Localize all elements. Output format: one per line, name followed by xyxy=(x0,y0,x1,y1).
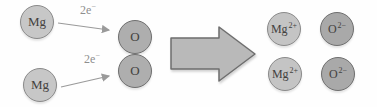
mg-atom: Mg xyxy=(23,68,57,102)
ionic-bonding-diagram: Mg Mg 2e− 2e− O O Mg2+ O2− Mg2+ O2− xyxy=(0,0,377,107)
electron-transfer-arrow-bottom xyxy=(61,76,109,87)
reaction-arrow xyxy=(171,27,255,81)
mg-atom: Mg xyxy=(20,5,54,39)
o-atom-label: O xyxy=(130,63,139,79)
o-atom: O xyxy=(118,54,152,88)
mg-ion: Mg2+ xyxy=(267,12,301,46)
ion-label: O2− xyxy=(328,22,346,37)
ion-label: Mg2+ xyxy=(271,22,297,37)
mg-atom-label: Mg xyxy=(28,14,46,30)
mg-atom-label: Mg xyxy=(31,77,49,93)
electron-transfer-label: 2e− xyxy=(74,52,110,67)
o-ion: O2− xyxy=(321,57,355,91)
electron-charge-sup: − xyxy=(91,2,96,11)
electron-transfer-arrow-top xyxy=(58,23,109,30)
ion-charge-sup: 2+ xyxy=(289,21,298,30)
mg-ion: Mg2+ xyxy=(268,57,302,91)
o-atom-label: O xyxy=(130,29,139,45)
o-atom: O xyxy=(118,20,152,54)
ion-label: O2− xyxy=(329,67,347,82)
arrow-layer xyxy=(0,0,377,107)
ion-charge-sup: 2− xyxy=(338,21,347,30)
o-ion: O2− xyxy=(320,12,354,46)
ion-charge-sup: 2− xyxy=(339,66,348,75)
electron-transfer-label: 2e− xyxy=(70,3,106,18)
ion-label: Mg2+ xyxy=(272,67,298,82)
electron-charge-sup: − xyxy=(95,51,100,60)
ion-charge-sup: 2+ xyxy=(290,66,299,75)
